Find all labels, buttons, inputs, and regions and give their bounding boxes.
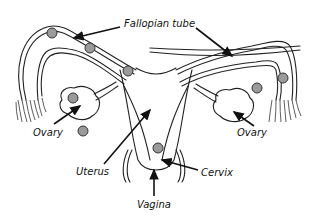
right-fimbriae xyxy=(269,100,301,122)
label-vagina: Vagina xyxy=(137,200,171,210)
right-ovary xyxy=(194,84,253,122)
egg-icon xyxy=(123,66,133,76)
label-ovary-left: Ovary xyxy=(33,128,63,138)
arrow-fallopian-left xyxy=(74,27,120,38)
egg-icon xyxy=(47,28,57,38)
egg-icon xyxy=(153,143,163,153)
label-ovary-right: Ovary xyxy=(237,128,267,138)
label-cervix: Cervix xyxy=(201,168,233,178)
egg-icon xyxy=(252,83,262,93)
arrow-uterus xyxy=(104,110,150,164)
egg-icon xyxy=(68,93,78,103)
label-uterus: Uterus xyxy=(76,167,109,177)
arrow-fallopian-right xyxy=(196,28,232,56)
egg-icon xyxy=(85,43,95,53)
reproductive-system-diagram xyxy=(0,0,312,223)
label-fallopian-tube: Fallopian tube xyxy=(124,19,195,29)
egg-icon xyxy=(278,73,288,83)
arrow-ovary-left xyxy=(54,106,80,124)
left-fimbriae xyxy=(16,98,46,122)
uterus xyxy=(120,68,192,170)
egg-icon xyxy=(78,126,88,136)
